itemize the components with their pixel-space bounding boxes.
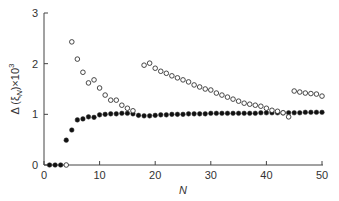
open-data-point <box>309 91 314 96</box>
filled-data-point <box>103 112 108 117</box>
filled-data-point <box>70 128 75 133</box>
open-data-point <box>181 78 186 83</box>
open-data-point <box>192 83 197 88</box>
open-data-point <box>75 57 80 62</box>
filled-data-point <box>142 114 147 119</box>
open-data-point <box>242 101 247 106</box>
open-data-point <box>92 78 97 83</box>
filled-data-point <box>64 138 69 143</box>
open-data-point <box>275 109 280 114</box>
filled-data-point <box>86 115 91 120</box>
filled-data-point <box>170 112 175 117</box>
filled-data-point <box>231 111 236 116</box>
x-tick-label: 40 <box>260 169 272 181</box>
open-data-point <box>70 40 75 45</box>
filled-data-point <box>58 163 63 168</box>
open-data-point <box>214 91 219 96</box>
x-axis: 01020304050 <box>41 161 328 181</box>
open-data-point <box>97 86 102 91</box>
open-data-point <box>314 92 319 97</box>
filled-data-point <box>164 113 169 118</box>
filled-data-point <box>242 111 247 116</box>
x-tick-label: 30 <box>205 169 217 181</box>
filled-data-point <box>97 113 102 118</box>
open-data-point <box>175 76 180 81</box>
open-data-point <box>292 89 297 94</box>
open-data-point <box>164 71 169 76</box>
open-data-point <box>281 111 286 116</box>
filled-data-point <box>309 110 314 115</box>
x-tick-label: 50 <box>316 169 328 181</box>
open-data-point <box>253 103 258 108</box>
y-tick-label: 2 <box>32 58 38 70</box>
y-axis-title: Δ (ξN)×103 <box>7 63 24 115</box>
filled-data-point <box>53 163 58 168</box>
filled-data-point <box>81 117 86 122</box>
x-axis-title: N <box>179 184 187 196</box>
filled-data-point <box>209 111 214 116</box>
open-data-point <box>158 69 163 74</box>
filled-data-point <box>236 111 241 116</box>
open-data-point <box>303 91 308 96</box>
open-data-point <box>64 163 69 168</box>
open-data-point <box>231 97 236 102</box>
open-data-point <box>103 93 108 98</box>
x-tick-label: 0 <box>41 169 47 181</box>
filled-data-point <box>220 111 225 116</box>
filled-data-point <box>192 112 197 117</box>
open-data-point <box>81 70 86 75</box>
open-data-point <box>320 94 325 99</box>
y-axis: 0123 <box>32 7 48 171</box>
open-data-point <box>225 95 230 100</box>
open-data-point <box>220 93 225 98</box>
filled-data-point <box>314 110 319 115</box>
open-data-point <box>142 63 147 68</box>
filled-data-point <box>297 111 302 116</box>
filled-data-point <box>303 110 308 115</box>
filled-data-point <box>75 118 80 123</box>
filled-data-point <box>120 111 125 116</box>
filled-data-point <box>136 113 141 118</box>
y-tick-label: 0 <box>32 159 38 171</box>
filled-data-point <box>147 114 152 119</box>
filled-data-point <box>158 113 163 118</box>
filled-data-point <box>203 112 208 117</box>
filled-data-point <box>181 112 186 117</box>
filled-data-point <box>292 111 297 116</box>
filled-data-point <box>214 111 219 116</box>
filled-data-point <box>259 111 264 116</box>
filled-data-point <box>253 111 258 116</box>
open-data-point <box>125 106 130 111</box>
x-tick-label: 20 <box>149 169 161 181</box>
open-data-point <box>247 102 252 107</box>
filled-data-point <box>320 110 325 115</box>
data-points <box>47 40 324 168</box>
open-data-point <box>147 61 152 66</box>
filled-data-point <box>186 112 191 117</box>
filled-data-point <box>197 112 202 117</box>
open-data-point <box>286 115 291 120</box>
open-data-point <box>114 98 119 103</box>
y-tick-label: 3 <box>32 7 38 19</box>
filled-data-point <box>225 111 230 116</box>
y-tick-label: 1 <box>32 108 38 120</box>
open-data-point <box>120 103 125 108</box>
open-data-point <box>197 85 202 90</box>
open-data-point <box>108 98 113 103</box>
open-data-point <box>236 99 241 104</box>
filled-data-point <box>108 112 113 117</box>
open-data-point <box>270 108 275 113</box>
x-tick-label: 10 <box>93 169 105 181</box>
filled-data-point <box>125 111 130 116</box>
open-data-point <box>153 66 158 71</box>
open-data-point <box>203 87 208 92</box>
open-data-point <box>170 74 175 79</box>
filled-data-point <box>264 111 269 116</box>
filled-data-point <box>114 112 119 117</box>
scatter-chart: 0123 01020304050 N Δ (ξN)×103 <box>0 0 339 201</box>
open-data-point <box>209 88 214 93</box>
open-data-point <box>264 106 269 111</box>
filled-data-point <box>92 115 97 120</box>
filled-data-point <box>47 163 52 168</box>
filled-data-point <box>247 111 252 116</box>
